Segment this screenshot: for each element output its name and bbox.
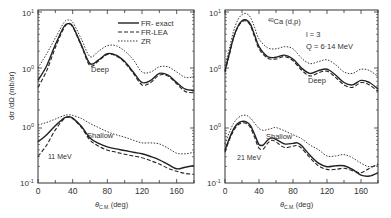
right-deep-label: Deep xyxy=(308,76,326,85)
right-energy-label: 21 MeV xyxy=(237,154,261,161)
legend-zr: ZR xyxy=(141,37,152,46)
right-ytick-bottom: 10-1 xyxy=(207,178,221,188)
right-xtick-160: 160 xyxy=(354,186,368,196)
right-ytick-mid-lower: 100 xyxy=(209,122,221,132)
right-ytick-mid-upper: 100 xyxy=(209,64,221,74)
deep-fr-exact-curve xyxy=(38,23,194,90)
legend: FR- exact FR-LEA ZR xyxy=(118,19,174,46)
shallow-fr-exact-curve xyxy=(225,121,378,176)
deep-fr-exact-curve xyxy=(225,20,378,89)
left-ytick-bottom: 10-1 xyxy=(20,178,34,188)
shallow-fr-lea-curve xyxy=(225,123,378,173)
right-xtick-120: 120 xyxy=(320,186,334,196)
left-xtick-80: 80 xyxy=(103,186,113,196)
left-xtick-120: 120 xyxy=(135,186,149,196)
right-curves xyxy=(225,13,378,176)
reaction-label: 40Ca (d,p) xyxy=(268,17,301,27)
right-shallow-label: Shallow xyxy=(266,132,293,141)
right-xtick-40: 40 xyxy=(254,186,264,196)
legend-fr-exact: FR- exact xyxy=(141,19,174,28)
left-deep-label: Deep xyxy=(91,65,109,74)
left-curves xyxy=(38,20,194,175)
left-xtick-160: 160 xyxy=(170,186,184,196)
left-xtick-0: 0 xyxy=(36,186,41,196)
left-panel: 101 100 100 10-1 dσ /dΩ (mb/sr) 0 40 80 … xyxy=(7,8,194,210)
right-xtick-80: 80 xyxy=(288,186,298,196)
left-shallow-label: Shallow xyxy=(87,131,114,140)
left-xtick-40: 40 xyxy=(68,186,78,196)
left-energy-label: 11 MeV xyxy=(48,153,72,160)
left-ytick-mid-lower: 100 xyxy=(22,122,34,132)
left-ytick-mid-upper: 100 xyxy=(22,64,34,74)
deep-fr-lea-curve xyxy=(38,24,194,93)
right-xlabel: θC.M.(deg) xyxy=(280,200,314,210)
legend-fr-lea: FR-LEA xyxy=(141,28,168,37)
figure: 101 100 100 10-1 dσ /dΩ (mb/sr) 0 40 80 … xyxy=(0,0,391,218)
deep-fr-lea-curve xyxy=(225,21,378,92)
left-ytick-top: 101 xyxy=(22,8,34,18)
q-value-label: Q = 6·14 MeV xyxy=(306,42,353,51)
right-ytick-top: 101 xyxy=(209,8,221,18)
left-xlabel: θC.M.(deg) xyxy=(95,200,129,210)
shallow-fr-exact-curve xyxy=(38,117,194,169)
l-value-label: l = 3 xyxy=(306,30,320,39)
left-ylabel: dσ /dΩ (mb/sr) xyxy=(7,71,16,120)
right-xtick-0: 0 xyxy=(223,186,228,196)
deep-zr-curve xyxy=(38,20,194,78)
right-panel: 101 100 100 10-1 0 40 80 120 160 θC.M.(d… xyxy=(207,8,378,210)
